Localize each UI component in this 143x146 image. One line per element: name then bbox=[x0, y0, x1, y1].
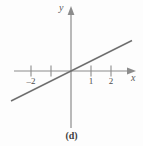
coordinate-plot bbox=[0, 0, 143, 146]
x-tick-label-1: 1 bbox=[87, 77, 95, 86]
y-axis-arrow-icon bbox=[68, 6, 75, 15]
figure-panel-d: y x –2 1 2 (d) bbox=[0, 0, 143, 146]
y-axis-label: y bbox=[59, 3, 63, 13]
x-tick-label-neg2: –2 bbox=[23, 77, 39, 86]
figure-caption: (d) bbox=[0, 130, 143, 141]
x-axis-label: x bbox=[131, 73, 135, 83]
x-tick-label-2: 2 bbox=[107, 77, 115, 86]
